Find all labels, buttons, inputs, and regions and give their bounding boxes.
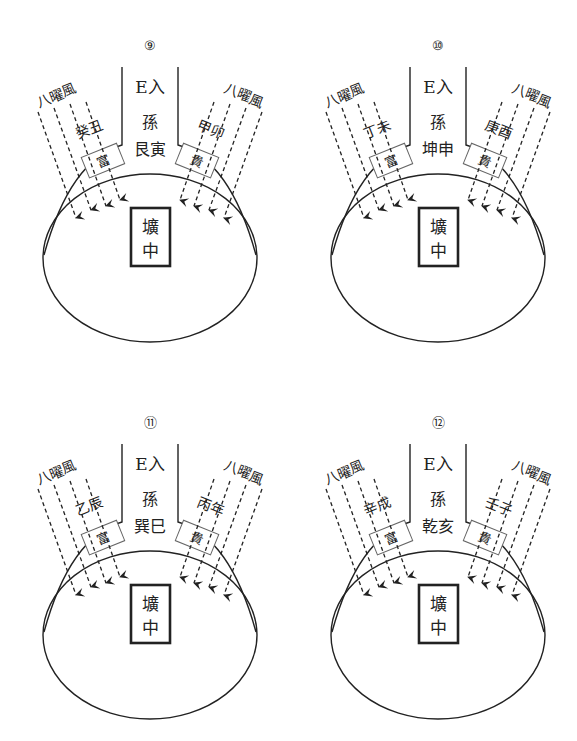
direction-label: 艮寅: [134, 140, 166, 159]
direction-label: 坤申: [422, 140, 454, 159]
left-wind-group: 八曜風 乙辰 富: [34, 451, 125, 563]
diagram-number: ⑩: [432, 38, 444, 53]
center-label-top: 壙: [142, 594, 159, 614]
left-stem-label: 乙辰: [73, 494, 105, 519]
left-wind-label: 八曜風: [322, 80, 367, 111]
right-wind-group: 八曜風 壬子 貴: [463, 451, 554, 563]
entry-label: E入: [423, 77, 452, 97]
direction-label: 巽巳: [134, 517, 166, 536]
diagram-svg: ⑫ E入 孫 乾亥 八曜風 辛戌 富: [288, 377, 577, 741]
tomb-wind-diagram-9: ⑨ E入 孫 艮寅 八曜風 癸丑 富: [0, 0, 290, 370]
left-wind-group: 八曜風 癸丑 富: [34, 74, 125, 186]
tomb-wind-diagram-10: ⑩ E入 孫 坤申 八曜風 丁未 富: [288, 0, 577, 370]
center-label-top: 壙: [142, 217, 159, 237]
right-stem-label: 甲卯: [195, 117, 227, 142]
center-label-top: 壙: [430, 594, 447, 614]
sun-label: 孫: [142, 113, 158, 132]
tomb-wind-diagram-11: ⑪ E入 孫 巽巳 八曜風 乙辰 富: [0, 377, 290, 741]
right-wind-group: 八曜風 丙年 貴: [175, 451, 266, 563]
center-label-bottom: 中: [142, 618, 159, 638]
sun-label: 孫: [142, 490, 158, 509]
entry-label: E入: [423, 454, 452, 474]
center-label-top: 壙: [430, 217, 447, 237]
right-wind-label: 八曜風: [509, 80, 554, 111]
entry-label: E入: [135, 77, 164, 97]
right-wind-label: 八曜風: [221, 457, 266, 488]
right-wind-group: 八曜風 甲卯 貴: [175, 74, 266, 186]
direction-label: 乾亥: [422, 517, 454, 536]
left-stem-label: 辛戌: [361, 494, 393, 519]
diagram-svg: ⑪ E入 孫 巽巳 八曜風 乙辰 富: [0, 377, 290, 741]
entry-label: E入: [135, 454, 164, 474]
left-stem-label: 癸丑: [73, 117, 105, 142]
diagram-number: ⑫: [432, 415, 445, 430]
right-wind-group: 八曜風 庚酉 貴: [463, 74, 554, 186]
right-stem-label: 壬子: [483, 494, 515, 519]
diagram-number: ⑨: [144, 38, 156, 53]
left-wind-group: 八曜風 辛戌 富: [322, 451, 413, 563]
center-label-bottom: 中: [142, 241, 159, 261]
diagram-number: ⑪: [144, 415, 157, 430]
right-wind-label: 八曜風: [509, 457, 554, 488]
right-stem-label: 庚酉: [483, 117, 515, 142]
center-label-bottom: 中: [430, 618, 447, 638]
left-wind-label: 八曜風: [34, 80, 79, 111]
left-wind-label: 八曜風: [34, 457, 79, 488]
right-wind-label: 八曜風: [221, 80, 266, 111]
sun-label: 孫: [430, 490, 446, 509]
sun-label: 孫: [430, 113, 446, 132]
right-stem-label: 丙年: [195, 494, 227, 519]
left-wind-label: 八曜風: [322, 457, 367, 488]
diagram-svg: ⑩ E入 孫 坤申 八曜風 丁未 富: [288, 0, 577, 370]
diagram-svg: ⑨ E入 孫 艮寅 八曜風 癸丑 富: [0, 0, 290, 370]
tomb-wind-diagram-12: ⑫ E入 孫 乾亥 八曜風 辛戌 富: [288, 377, 577, 741]
left-wind-group: 八曜風 丁未 富: [322, 74, 413, 186]
center-label-bottom: 中: [430, 241, 447, 261]
left-stem-label: 丁未: [361, 117, 393, 142]
